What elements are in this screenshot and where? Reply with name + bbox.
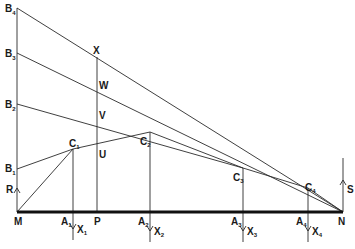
label-n: N [338, 216, 345, 227]
label-b2: B2 [5, 99, 16, 112]
funicular-polygon [17, 132, 343, 212]
label-p: P [94, 216, 101, 227]
label-x: X [93, 45, 100, 56]
label-a4: A4 [296, 216, 307, 228]
label-c3: C3 [233, 172, 244, 184]
label-m: M [14, 216, 22, 227]
line-b4-n [17, 8, 343, 212]
label-c2: C2 [140, 136, 151, 148]
label-a2: A2 [138, 216, 149, 228]
label-x4: X4 [312, 226, 323, 238]
label-v: V [99, 110, 106, 121]
label-u: U [99, 149, 106, 160]
label-a1: A1 [61, 216, 72, 228]
label-s: S [347, 184, 354, 195]
label-x2: X2 [154, 226, 165, 238]
beam-diagram: B4 B3 B2 B1 R M N P S X W V U C1 C2 C3 C… [0, 0, 355, 249]
label-b1: B1 [5, 163, 16, 176]
label-c4: C4 [305, 182, 316, 194]
line-b3-n [17, 53, 343, 212]
label-r: R [6, 184, 14, 195]
label-b3: B3 [5, 48, 16, 61]
label-b4: B4 [5, 3, 16, 16]
label-w: W [99, 80, 109, 91]
label-c1: C1 [69, 138, 80, 150]
label-a3: A3 [231, 216, 242, 228]
label-x1: X1 [77, 224, 88, 236]
label-x3: X3 [247, 226, 258, 238]
